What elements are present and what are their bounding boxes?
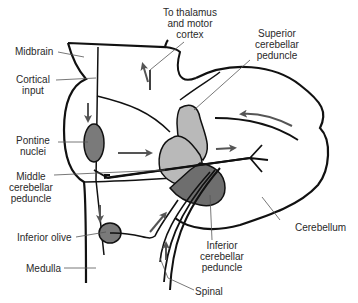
label-line: Middle (9, 171, 53, 182)
label-pontine-nuclei: Pontine nuclei (16, 135, 50, 157)
pontine-nuclei (84, 124, 104, 162)
label-line: Cortical (16, 74, 50, 85)
label-spinal: Spinal (195, 286, 223, 297)
cerebellum-diagram: To thalamus and motor cortex Superior ce… (0, 0, 358, 303)
label-line: Pontine (16, 135, 50, 146)
label-cerebellum: Cerebellum (295, 222, 346, 233)
label-line: peduncle (9, 193, 53, 204)
label-line: Superior (255, 28, 299, 39)
label-cortical-input: Cortical input (16, 74, 50, 96)
label-line: cerebellar (9, 182, 53, 193)
label-medulla: Medulla (26, 263, 61, 274)
label-line: Inferior (200, 240, 244, 251)
label-line: peduncle (255, 50, 299, 61)
label-line: input (16, 85, 50, 96)
label-line: peduncle (200, 262, 244, 273)
label-to-thalamus: To thalamus and motor cortex (163, 7, 217, 40)
label-line: nuclei (16, 146, 50, 157)
label-inferior-olive: Inferior olive (17, 232, 71, 243)
label-midbrain: Midbrain (15, 46, 53, 57)
label-middle-peduncle: Middle cerebellar peduncle (9, 171, 53, 204)
label-line: cortex (163, 29, 217, 40)
brainstem-outline (64, 40, 168, 283)
label-inferior-peduncle: Inferior cerebellar peduncle (200, 240, 244, 273)
label-superior-peduncle: Superior cerebellar peduncle (255, 28, 299, 61)
diagram-drawing (0, 0, 358, 303)
label-line: and motor (163, 18, 217, 29)
label-line: cerebellar (200, 251, 244, 262)
label-line: cerebellar (255, 39, 299, 50)
label-line: To thalamus (163, 7, 217, 18)
